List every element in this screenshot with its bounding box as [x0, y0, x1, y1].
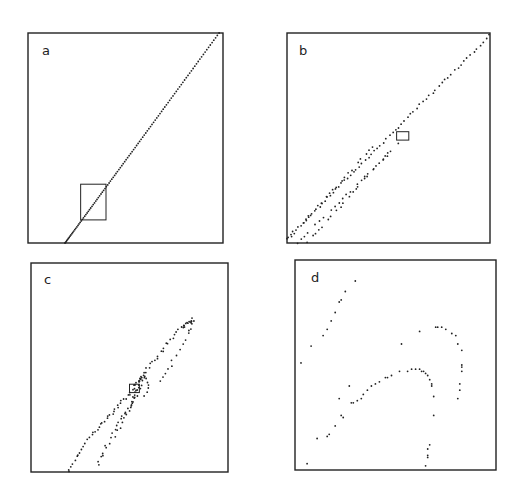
data-point — [364, 176, 366, 178]
data-point — [399, 370, 401, 372]
data-point — [114, 175, 116, 177]
data-point — [139, 141, 141, 143]
data-point — [328, 433, 330, 435]
data-point — [412, 111, 414, 113]
data-point — [143, 372, 145, 374]
data-point — [162, 376, 164, 378]
data-point — [300, 238, 302, 240]
data-point — [192, 68, 194, 70]
data-point — [159, 113, 161, 115]
data-point — [466, 57, 468, 59]
data-point — [191, 70, 193, 72]
data-point — [142, 136, 144, 138]
data-point — [350, 191, 352, 193]
data-point — [447, 77, 449, 79]
data-point — [86, 212, 88, 214]
data-point — [437, 326, 439, 328]
data-point — [92, 431, 94, 433]
data-point — [68, 469, 70, 471]
data-point — [480, 45, 482, 47]
data-point — [318, 229, 320, 231]
data-point — [387, 377, 389, 379]
data-point — [190, 328, 192, 330]
panel-b-frame — [287, 33, 490, 243]
data-point — [184, 326, 186, 328]
data-point — [127, 408, 129, 410]
data-point — [204, 51, 206, 53]
data-point — [378, 162, 380, 164]
data-point — [89, 437, 91, 439]
data-point — [360, 398, 362, 400]
data-point — [107, 415, 109, 417]
data-point — [145, 378, 147, 380]
data-point — [387, 152, 389, 154]
data-point — [154, 119, 156, 121]
data-point — [361, 179, 363, 181]
data-point — [107, 184, 109, 186]
data-point — [169, 339, 171, 341]
data-point — [209, 44, 211, 46]
data-point — [109, 443, 111, 445]
data-point — [123, 417, 125, 419]
data-point — [81, 449, 83, 451]
data-point — [113, 411, 115, 413]
data-point — [117, 404, 119, 406]
data-point — [441, 326, 443, 328]
data-point — [68, 471, 70, 473]
data-point — [355, 169, 357, 171]
data-point — [321, 226, 323, 228]
data-point — [117, 407, 119, 409]
data-point — [365, 159, 367, 161]
data-point — [129, 394, 131, 396]
data-point — [297, 226, 299, 228]
data-point — [94, 202, 96, 204]
data-point — [307, 215, 309, 217]
data-point — [141, 377, 143, 379]
data-point — [454, 69, 456, 71]
data-point — [344, 177, 346, 179]
data-point — [431, 385, 433, 387]
data-point — [112, 413, 114, 415]
data-point — [154, 359, 156, 361]
data-point — [383, 142, 385, 144]
data-point — [427, 375, 429, 377]
data-point — [161, 111, 163, 113]
data-point — [297, 242, 299, 244]
data-point — [86, 438, 88, 440]
data-point — [338, 398, 340, 400]
data-point — [441, 82, 443, 84]
data-point — [345, 194, 347, 196]
data-point — [187, 322, 189, 324]
data-point — [326, 436, 328, 438]
data-point — [175, 331, 177, 333]
data-point — [334, 425, 336, 427]
data-point — [83, 217, 85, 219]
data-point — [315, 208, 317, 210]
data-point — [400, 123, 402, 125]
data-point — [422, 101, 424, 103]
data-point — [457, 398, 459, 400]
data-point — [148, 384, 150, 386]
data-point — [310, 345, 312, 347]
data-point — [290, 234, 292, 236]
data-point — [352, 402, 354, 404]
data-point — [184, 79, 186, 81]
data-point — [103, 190, 105, 192]
data-point — [476, 48, 478, 50]
data-point — [348, 385, 350, 387]
data-point — [324, 200, 326, 202]
data-point — [361, 163, 363, 165]
data-point — [188, 330, 190, 332]
data-point — [120, 402, 122, 404]
data-point — [364, 178, 366, 180]
data-point — [300, 362, 302, 364]
data-point — [147, 382, 149, 384]
data-point — [170, 97, 172, 99]
data-point — [291, 236, 293, 238]
data-point — [100, 193, 102, 195]
data-point — [110, 180, 112, 182]
data-point — [142, 380, 144, 382]
data-point — [461, 364, 463, 366]
data-point — [461, 366, 463, 368]
data-point — [137, 395, 139, 397]
